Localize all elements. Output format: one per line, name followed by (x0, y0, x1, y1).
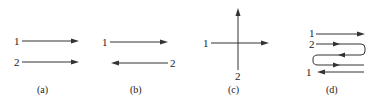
arrow-right-icon (357, 32, 365, 37)
arrow-right-icon (333, 42, 340, 47)
stream-1-label: 1 (102, 36, 108, 48)
stream-2-label: 2 (235, 70, 241, 82)
panel-b-counter-flow: 1 2 (b) (102, 36, 176, 96)
stream-2-label: 2 (14, 56, 20, 68)
stream-1-label: 1 (14, 35, 20, 47)
arrow-right-icon (333, 63, 340, 68)
arrow-left-icon (317, 70, 325, 75)
arrow-right-icon (71, 39, 79, 44)
arrow-left-icon (338, 53, 345, 58)
flow-arrangement-diagram: 1 2 (a) 1 2 (b) 1 2 (c) 1 2 (0, 0, 380, 102)
panel-d-multi-pass-flow: 1 2 1 (d) (306, 27, 365, 96)
arrow-right-icon (71, 60, 79, 65)
panel-caption: (d) (326, 84, 338, 96)
panel-a-parallel-flow: 1 2 (a) (14, 35, 79, 96)
panel-caption: (c) (228, 84, 239, 96)
arrow-left-icon (111, 61, 119, 66)
arrow-right-icon (160, 40, 168, 45)
panel-caption: (b) (130, 84, 142, 96)
stream-2-label: 2 (309, 38, 315, 50)
stream-2-serpentine-path (313, 44, 365, 65)
stream-1-label: 1 (203, 37, 209, 49)
stream-2-label: 2 (170, 57, 176, 69)
arrow-up-icon (236, 8, 241, 16)
panel-c-cross-flow: 1 2 (c) (203, 8, 269, 96)
arrow-right-icon (261, 41, 269, 46)
stream-1-outlet-label: 1 (306, 66, 312, 78)
panel-caption: (a) (37, 84, 48, 96)
